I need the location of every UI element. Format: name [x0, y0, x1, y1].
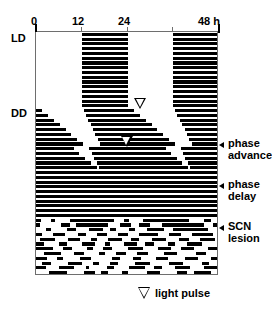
activity-bar — [36, 128, 66, 131]
activity-bar — [36, 242, 44, 245]
activity-bar — [68, 262, 81, 265]
activity-bar — [93, 262, 99, 265]
activity-bar — [36, 266, 46, 269]
activity-bar — [133, 257, 141, 260]
activity-bar — [67, 228, 77, 231]
activity-bar — [187, 133, 218, 136]
activity-bar — [92, 152, 171, 155]
activity-bar — [195, 176, 218, 179]
activity-bar — [82, 57, 128, 60]
activity-bar — [188, 161, 218, 164]
actogram-figure: 0 12 24 48 h LD DD phaseadvance phasedel… — [0, 0, 272, 309]
activity-bar — [123, 214, 218, 217]
activity-bar — [173, 85, 218, 88]
activity-bar — [70, 219, 114, 222]
activity-bar — [173, 38, 218, 41]
activity-bar — [82, 100, 128, 103]
activity-bar — [82, 90, 128, 93]
activity-bar — [59, 242, 67, 245]
activity-bar — [116, 252, 126, 255]
activity-bar — [118, 233, 128, 236]
activity-bar — [204, 266, 217, 269]
phase-label-ld: LD — [11, 33, 26, 44]
activity-bar — [36, 147, 74, 150]
activity-bar — [114, 195, 218, 198]
activity-bar — [68, 238, 79, 241]
activity-bar — [36, 138, 77, 141]
activity-bar — [106, 181, 206, 184]
activity-bar — [107, 266, 115, 269]
activity-bar — [202, 262, 210, 265]
activity-bar — [91, 238, 97, 241]
activity-bar — [185, 128, 218, 131]
left-arrow-icon — [219, 183, 224, 189]
activity-bar — [173, 90, 218, 93]
activity-bar — [179, 238, 189, 241]
activity-bar — [147, 271, 160, 274]
activity-bar — [76, 223, 108, 226]
activity-bar — [168, 242, 176, 245]
activity-bar — [181, 147, 218, 150]
activity-bar — [36, 152, 79, 155]
activity-bar — [137, 252, 148, 255]
activity-bar — [87, 247, 93, 250]
activity-bar — [169, 262, 182, 265]
activity-bar — [103, 247, 113, 250]
activity-bar — [82, 52, 128, 55]
activity-bar — [198, 181, 218, 184]
activity-bar — [156, 257, 167, 260]
activity-bar — [173, 57, 218, 60]
activity-bar — [74, 252, 84, 255]
activity-bar — [139, 233, 158, 236]
activity-bar — [82, 42, 128, 45]
activity-bar — [98, 138, 169, 141]
annotation-line-1: phase — [228, 178, 260, 190]
activity-bar — [51, 219, 55, 222]
activity-bar — [116, 200, 218, 203]
activity-bar — [36, 133, 71, 136]
activity-bar — [89, 147, 165, 150]
activity-bar — [192, 233, 213, 236]
activity-bar — [175, 266, 190, 269]
activity-bar — [173, 80, 218, 83]
activity-bar — [169, 233, 180, 236]
activity-bar — [36, 157, 85, 160]
activity-bar — [86, 266, 90, 269]
activity-bar — [59, 266, 74, 269]
activity-bar — [36, 247, 53, 250]
activity-bar — [213, 223, 218, 226]
activity-bar — [49, 271, 66, 274]
activity-bar — [185, 257, 198, 260]
activity-bar — [122, 271, 128, 274]
activity-bar — [128, 247, 143, 250]
activity-bar — [110, 262, 118, 265]
activity-bar — [175, 109, 218, 112]
activity-bar — [36, 223, 40, 226]
activity-bar — [173, 104, 218, 107]
activity-bar — [36, 119, 54, 122]
activity-bar — [118, 204, 218, 207]
activity-bar — [173, 76, 218, 79]
activity-bar — [82, 66, 128, 69]
activity-bar — [99, 166, 188, 169]
activity-bar — [112, 257, 120, 260]
activity-bar — [36, 185, 120, 188]
left-arrow-icon — [219, 142, 224, 148]
activity-bar — [44, 252, 61, 255]
activity-bar — [173, 228, 207, 231]
activity-bar — [94, 157, 177, 160]
activity-bar — [121, 209, 218, 212]
activity-bar — [190, 166, 218, 169]
activity-bar — [187, 242, 202, 245]
activity-bar — [109, 185, 212, 188]
activity-bar — [204, 219, 212, 222]
activity-bar — [36, 181, 114, 184]
activity-bar — [88, 119, 146, 122]
activity-bar — [104, 176, 200, 179]
activity-bar — [181, 247, 194, 250]
activity-bar — [129, 228, 135, 231]
activity-bar — [97, 161, 183, 164]
actogram-plot-area — [35, 32, 218, 275]
phase-label-dd: DD — [11, 108, 27, 119]
activity-bar — [200, 238, 215, 241]
